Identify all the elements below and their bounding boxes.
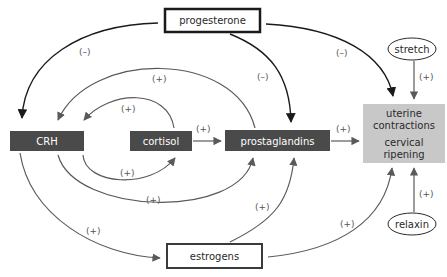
node-estrogens: estrogens (167, 244, 262, 268)
node-crh: CRH (10, 131, 84, 151)
node-label: prostaglandins (241, 136, 315, 147)
edge-sign-label: (+) (419, 72, 434, 82)
edge-sign-label: (+) (340, 219, 355, 229)
edge-estrogens-prostaglandins: (+) (230, 158, 294, 242)
node-progesterone: progesterone (165, 9, 260, 32)
edge-sign-label: (+) (86, 226, 101, 236)
node-prostaglandins: prostaglandins (225, 130, 330, 151)
node-label-line1: uterine (386, 108, 422, 119)
edge-sign-label: (+) (121, 104, 136, 114)
node-outcome: uterine contractions cervical ripening (363, 104, 445, 163)
edge-stretch-outcome: (+) (414, 61, 434, 99)
node-stretch: stretch (388, 38, 436, 60)
edge-prostaglandins-outcome: (+) (331, 124, 359, 141)
edge-sign-label: (+) (196, 124, 211, 134)
edge-cortisol-crh: (+) (84, 98, 174, 128)
node-label: progesterone (179, 15, 246, 26)
node-cortisol: cortisol (130, 131, 192, 151)
edge-cortisol-prostaglandins: (+) (193, 124, 221, 141)
node-relaxin: relaxin (388, 213, 436, 235)
edge-progesterone-prostaglandins: (–) (230, 34, 291, 122)
edge-relaxin-outcome: (+) (414, 168, 434, 212)
node-label-line3: cervical (385, 137, 424, 148)
node-label: estrogens (190, 251, 239, 262)
edge-sign-label: (–) (336, 48, 348, 58)
edge-crh-cortisol: (+) (83, 155, 175, 180)
edge-progesterone-crh: (–) (22, 23, 158, 118)
edge-sign-label: (+) (120, 168, 135, 178)
node-label: CRH (36, 136, 57, 147)
edge-estrogens-outcome: (+) (268, 168, 392, 257)
edge-crh-prostaglandins: (+) (58, 155, 253, 205)
node-label: stretch (395, 44, 430, 55)
node-label: relaxin (395, 219, 429, 230)
hormone-regulation-diagram: (–) (–) (–) (+) (+) (+) (+) (+) (+) (+) … (0, 0, 447, 277)
edge-sign-label: (+) (255, 202, 270, 212)
edge-sign-label: (+) (419, 189, 434, 199)
edge-sign-label: (–) (79, 47, 91, 57)
node-label-line4: ripening (383, 149, 424, 160)
node-label-line2: contractions (373, 120, 435, 131)
edge-sign-label: (+) (152, 74, 167, 84)
edge-sign-label: (–) (257, 72, 269, 82)
edge-sign-label: (+) (146, 195, 161, 205)
edge-prostaglandins-crh: (+) (58, 68, 255, 128)
edge-sign-label: (+) (336, 124, 351, 134)
node-label: cortisol (143, 136, 180, 147)
